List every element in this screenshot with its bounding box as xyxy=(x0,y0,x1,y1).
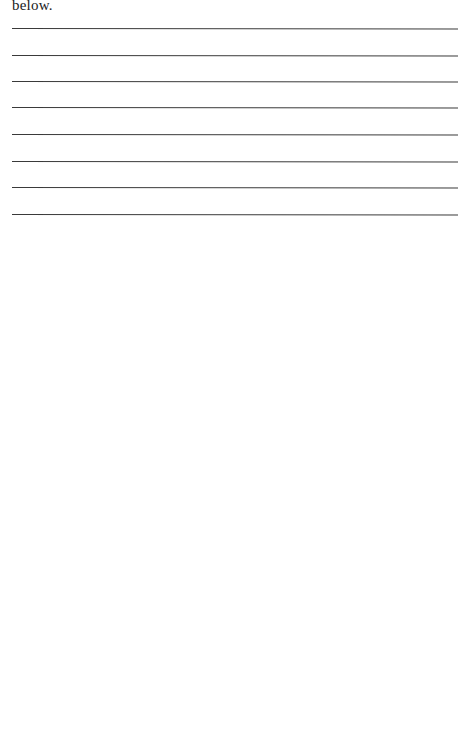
answer-line xyxy=(12,161,458,163)
answer-line xyxy=(12,214,458,216)
answer-line xyxy=(12,81,458,83)
answer-line xyxy=(12,187,458,189)
answer-line xyxy=(12,134,458,136)
answer-line xyxy=(12,28,458,30)
answer-line xyxy=(12,55,458,57)
answer-line xyxy=(12,107,458,109)
answer-lines xyxy=(12,0,458,230)
